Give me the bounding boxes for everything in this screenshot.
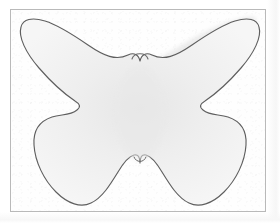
scan-canvas: Butterfly template outline xyxy=(0,0,280,223)
scanned-page xyxy=(0,0,280,223)
butterfly-shape-group xyxy=(20,19,259,205)
body-center-tone xyxy=(114,65,166,161)
butterfly-drawing xyxy=(0,0,280,223)
